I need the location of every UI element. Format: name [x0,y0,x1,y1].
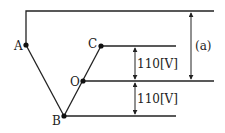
node-c-label: C [88,38,97,50]
node-o-label: O [70,76,80,88]
node-a-label: A [14,40,23,52]
top-wire [26,11,214,45]
node-b-dot [61,113,66,118]
node-o-dot [80,78,85,83]
node-a-dot [23,42,28,47]
unknown-voltage-label: (a) [195,40,212,52]
lower-voltage-label: 110[V] [137,93,178,105]
circuit-diagram: A B C O 110[V] 110[V] (a) [0,0,225,133]
upper-voltage-label: 110[V] [137,58,178,70]
node-b-label: B [52,115,61,127]
winding-ab [26,45,64,116]
diagram-lines [0,0,225,133]
node-c-dot [98,43,103,48]
